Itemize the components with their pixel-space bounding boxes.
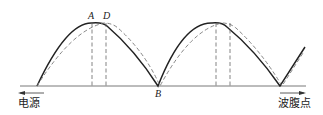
- point-a-label: A: [88, 11, 94, 21]
- antinode-label: 波腹点: [278, 98, 311, 109]
- solid-wave-curve: [37, 23, 305, 86]
- wave-diagram: [0, 0, 323, 115]
- source-arrow-icon: [18, 91, 25, 95]
- dashed-wave-curve: [37, 23, 303, 86]
- antinode-arrow-icon: [299, 91, 306, 95]
- point-d-label: D: [103, 11, 110, 21]
- point-b-label: B: [155, 89, 161, 99]
- source-label: 电源: [18, 98, 40, 109]
